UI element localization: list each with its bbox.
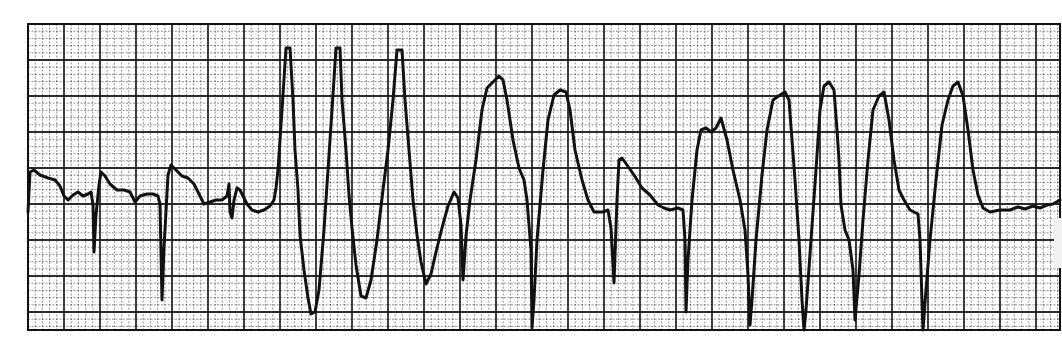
ecg-strip xyxy=(0,0,1062,353)
paper-edge xyxy=(1054,218,1062,268)
